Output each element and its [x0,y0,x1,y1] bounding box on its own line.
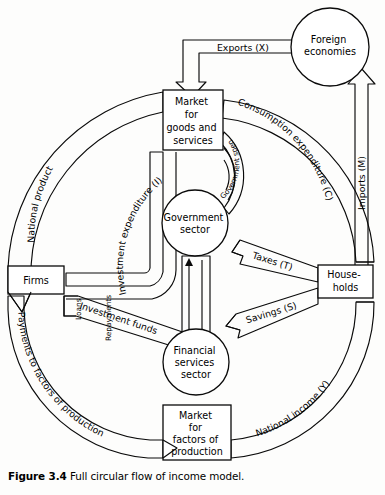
flow-taxes: Taxes (T) [232,240,318,282]
node-label-firms: Firms [23,275,49,286]
node-government-sector[interactable]: Government sector [162,190,228,256]
flow-label-taxes: Taxes (T) [250,249,294,272]
flow-label-consumption: Consumption expenditure (C) [237,96,336,202]
flow-label-exports: Exports (X) [217,42,269,53]
flow-investment-expenditure: Investment expenditure (I) [66,152,176,299]
flow-national-income: National income (Y) [231,302,374,458]
node-foreign-economies[interactable]: Foreign economies [291,8,369,86]
caption-text: Full circular flow of income model. [70,470,244,482]
flow-label-repayments: Repayments [104,295,113,341]
flow-label-investment-expenditure: Investment expenditure (I) [114,174,164,296]
loans-arrowhead-icon [185,258,193,266]
node-label-market-factors: Market for factors of production [171,410,223,457]
node-households[interactable]: House- holds [318,265,373,298]
flow-label-national-income: National income (Y) [254,378,332,438]
circular-flow-diagram: National product Investment expenditure … [0,0,385,467]
node-market-goods-services[interactable]: Market for goods and services [163,90,223,150]
node-label-foreign-economies: Foreign economies [304,34,356,57]
flow-label-payments: Payments to factors of production [16,311,106,438]
node-firms[interactable]: Firms [8,266,64,294]
flow-exports: Exports (X) [176,40,310,97]
node-market-factors-production[interactable]: Market for factors of production [163,405,231,460]
flow-consumption-expenditure: Consumption expenditure (C) [222,96,374,262]
flow-label-imports: Imports (M) [356,156,367,210]
flow-label-national-product: National product [25,164,55,243]
flow-imports: Imports (M) [348,68,375,272]
node-financial-services-sector[interactable]: Financial services sector [163,329,229,395]
figure-caption: Figure 3.4 Full circular flow of income … [8,470,378,482]
taxes-arrowhead-icon [232,240,243,256]
flow-label-investment-funds: Investment funds [78,300,159,336]
flow-label-loans: Loans [74,298,83,320]
figure-container: National product Investment expenditure … [0,0,385,495]
national-product-arrowhead-icon [8,292,31,312]
caption-number: Figure 3.4 [8,470,67,482]
savings-arrowhead-icon [226,314,240,330]
